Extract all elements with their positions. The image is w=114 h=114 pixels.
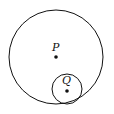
label-p: P [51,41,60,54]
circles-diagram: P Q [0,0,114,114]
label-q: Q [62,74,71,87]
center-point-q [65,89,69,93]
center-point-p [54,55,58,59]
